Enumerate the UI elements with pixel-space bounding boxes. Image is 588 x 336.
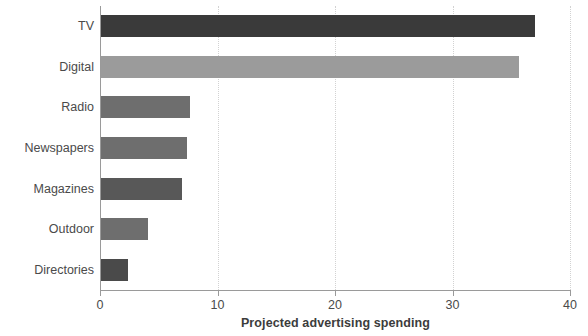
- x-tick-mark-10: [218, 291, 219, 296]
- x-tick-label-30: 30: [433, 298, 473, 312]
- bar-chart: Medium TVDigitalRadioNewspapersMagazines…: [0, 0, 588, 336]
- y-tick-label-magazines: Magazines: [2, 178, 94, 200]
- bar-tv: [100, 15, 535, 37]
- x-tick-mark-30: [453, 291, 454, 296]
- bar-directories: [100, 259, 128, 281]
- y-tick-label-radio: Radio: [2, 96, 94, 118]
- x-axis-title: Projected advertising spending: [100, 316, 571, 330]
- gridline-x-20: [335, 6, 336, 290]
- x-tick-mark-0: [100, 291, 101, 296]
- y-axis-line: [100, 6, 101, 290]
- gridline-x-40: [570, 6, 571, 290]
- bar-newspapers: [100, 137, 187, 159]
- x-tick-label-10: 10: [198, 298, 238, 312]
- y-tick-label-digital: Digital: [2, 56, 94, 78]
- bar-digital: [100, 56, 519, 78]
- y-tick-label-newspapers: Newspapers: [2, 137, 94, 159]
- x-tick-label-20: 20: [315, 298, 355, 312]
- y-tick-label-directories: Directories: [2, 259, 94, 281]
- y-tick-label-tv: TV: [2, 15, 94, 37]
- bar-magazines: [100, 178, 182, 200]
- bar-radio: [100, 96, 190, 118]
- plot-area: [100, 6, 570, 290]
- gridline-x-10: [218, 6, 219, 290]
- y-axis-tick-labels: TVDigitalRadioNewspapersMagazinesOutdoor…: [0, 6, 94, 290]
- x-tick-label-0: 0: [80, 298, 120, 312]
- y-tick-label-outdoor: Outdoor: [2, 218, 94, 240]
- gridline-x-30: [453, 6, 454, 290]
- bar-outdoor: [100, 218, 148, 240]
- x-tick-label-40: 40: [550, 298, 588, 312]
- x-tick-mark-40: [570, 291, 571, 296]
- x-tick-mark-20: [335, 291, 336, 296]
